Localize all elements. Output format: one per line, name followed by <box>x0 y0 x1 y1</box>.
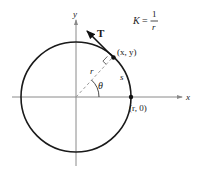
diagram-canvas: y x T (x, y) (r, 0) r s θ K = 1 r <box>0 0 201 175</box>
formula-denominator: r <box>152 22 156 32</box>
formula-lhs: K <box>132 15 141 26</box>
tangent-label: T <box>97 27 105 39</box>
point-xy <box>111 55 115 59</box>
curvature-formula: K = 1 r <box>132 9 158 32</box>
y-axis-label: y <box>72 9 77 19</box>
radius-label: r <box>90 66 94 76</box>
formula-numerator: 1 <box>152 9 157 19</box>
point-r0-label: (r, 0) <box>129 103 147 113</box>
radius-line <box>76 57 113 97</box>
point-xy-label: (x, y) <box>117 47 137 57</box>
x-axis-label: x <box>185 92 190 102</box>
angle-label: θ <box>98 80 103 91</box>
arc-length-label: s <box>120 72 124 82</box>
point-r0 <box>129 95 133 99</box>
curvature-circle-diagram: y x T (x, y) (r, 0) r s θ K = 1 r <box>0 0 201 175</box>
formula-equals: = <box>142 15 148 26</box>
